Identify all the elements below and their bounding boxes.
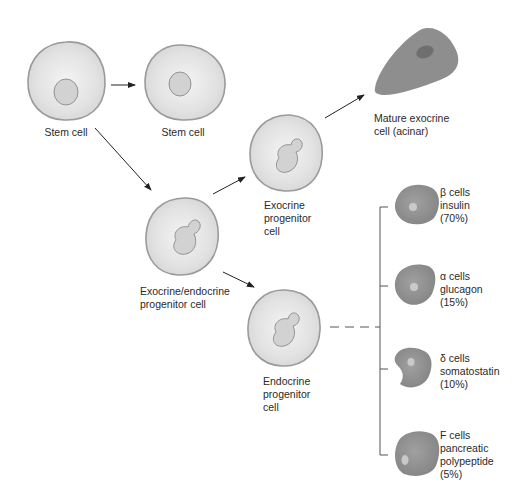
- endocrine-bracket: [380, 207, 388, 455]
- mature-exocrine-cell-icon: [375, 28, 459, 95]
- stem-cell-1-label: Stem cell: [36, 126, 96, 139]
- exo-endo-progenitor-icon: [146, 198, 218, 275]
- exocrine-progenitor-label: Exocrine progenitor cell: [264, 199, 311, 238]
- arrow-to-mature-exocrine: [325, 95, 364, 118]
- alpha-cell-label: α cells glucagon (15%): [440, 270, 483, 309]
- endocrine-progenitor-label: Endocrine progenitor cell: [263, 375, 310, 414]
- alpha-cell-icon: [395, 265, 435, 305]
- stem-cell-1-icon: [28, 42, 105, 120]
- arrow-stem-to-exo-endo: [95, 128, 151, 190]
- beta-cell-icon: [395, 185, 439, 225]
- stem-cell-2-icon: [145, 45, 225, 120]
- delta-cell-icon: [395, 348, 432, 388]
- endocrine-progenitor-icon: [248, 290, 320, 366]
- exocrine-progenitor-icon: [250, 115, 322, 191]
- beta-cell-label: β cells insulin (70%): [440, 186, 470, 225]
- delta-cell-label: δ cells somatostatin (10%): [440, 352, 500, 391]
- stem-cell-2-label: Stem cell: [153, 126, 213, 139]
- mature-exocrine-label: Mature exocrine cell (acinar): [374, 112, 449, 138]
- f-cell-label: F cells pancreatic polypeptide (5%): [440, 429, 494, 481]
- exo-endo-progenitor-label: Exocrine/endocrine progenitor cell: [140, 285, 230, 311]
- f-cell-icon: [395, 431, 439, 476]
- arrow-to-exocrine-progenitor: [213, 177, 245, 194]
- differentiation-diagram: [0, 0, 522, 503]
